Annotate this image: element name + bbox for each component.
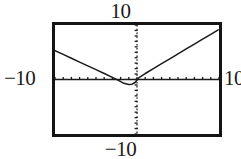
- x-max-label: 10: [224, 68, 241, 89]
- y-min-label: −10: [0, 139, 241, 159]
- plot-area: [55, 25, 219, 134]
- plot-frame: [52, 22, 222, 137]
- plot-canvas: [55, 25, 219, 134]
- y-max-label: 10: [0, 1, 241, 22]
- graphing-calculator-screenshot: 10 −10 10 −10: [0, 0, 241, 159]
- x-min-label: −10: [4, 68, 35, 89]
